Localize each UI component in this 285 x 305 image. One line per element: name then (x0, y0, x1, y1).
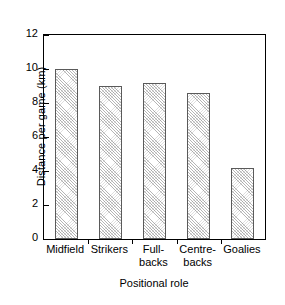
bar (187, 93, 210, 239)
x-tick-label: Full- backs (131, 243, 175, 268)
y-tick-mark (44, 205, 49, 206)
y-tick-label: 8 (8, 96, 38, 107)
bar (143, 83, 166, 239)
y-tick-mark (44, 171, 49, 172)
y-tick-mark (44, 35, 49, 36)
y-tick-mark (44, 239, 49, 240)
y-axis-tick-labels: 024681012 (0, 0, 38, 305)
bar (99, 86, 122, 239)
y-tick-mark (44, 137, 49, 138)
y-tick-label: 0 (8, 232, 38, 243)
x-tick-label: Midfield (43, 243, 87, 256)
y-tick-label: 4 (8, 164, 38, 175)
y-tick-label: 2 (8, 198, 38, 209)
y-tick-label: 10 (8, 62, 38, 73)
bar (231, 168, 254, 239)
x-tick-label: Goalies (220, 243, 264, 256)
x-tick-label: Strikers (87, 243, 131, 256)
y-tick-mark (44, 103, 49, 104)
y-tick-label: 6 (8, 130, 38, 141)
y-tick-mark (44, 69, 49, 70)
bar (55, 69, 78, 239)
x-tick-label: Centre- backs (176, 243, 220, 268)
bar-chart-figure: Distance per game (km) 024681012 Positio… (0, 0, 285, 305)
y-tick-label: 12 (8, 28, 38, 39)
plot-area (43, 34, 266, 240)
plot-inner (44, 35, 265, 239)
x-axis-title: Positional role (43, 278, 265, 289)
